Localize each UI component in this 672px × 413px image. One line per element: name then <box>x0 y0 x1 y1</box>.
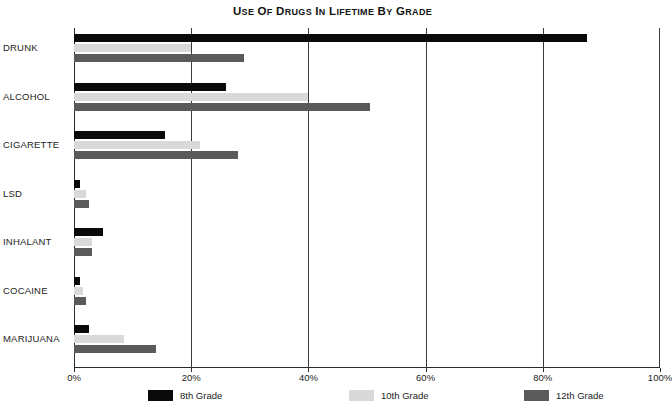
chart-title-word: DRUGS <box>276 5 312 17</box>
bar <box>74 34 587 42</box>
bar <box>74 103 370 111</box>
x-axis-tick-label: 60% <box>416 372 435 383</box>
chart-legend: 8th Grade10th Grade12th Grade <box>0 390 665 408</box>
bar <box>74 131 165 139</box>
chart-title-word: IN <box>315 5 325 17</box>
bar <box>74 228 103 236</box>
legend-swatch-icon <box>148 390 173 401</box>
chart-title-word: BY <box>378 5 393 17</box>
bar <box>74 335 124 343</box>
x-axis-tick-label: 0% <box>67 372 81 383</box>
legend-item[interactable]: 8th Grade <box>148 390 222 401</box>
chart-title-word: OF <box>258 5 273 17</box>
bar-group <box>74 77 660 126</box>
bar <box>74 151 238 159</box>
chart-title-word: GRADE <box>396 5 432 17</box>
chart-title-word: LIFETIME <box>329 5 374 17</box>
bar <box>74 44 191 52</box>
plot-area <box>74 28 660 368</box>
bar <box>74 238 92 246</box>
chart-title: USE OF DRUGS IN LIFETIME BY GRADE <box>0 5 665 17</box>
bar <box>74 93 308 101</box>
bar-group <box>74 319 660 368</box>
bar <box>74 54 244 62</box>
bar <box>74 297 86 305</box>
bar <box>74 180 80 188</box>
y-axis-label: LSD <box>3 188 71 199</box>
y-axis-label: ALCOHOL <box>3 91 71 102</box>
bar <box>74 345 156 353</box>
x-axis-tick-label: 40% <box>299 372 318 383</box>
bar <box>74 248 92 256</box>
bar <box>74 200 89 208</box>
bar-group <box>74 174 660 223</box>
chart-title-word: USE <box>233 5 254 17</box>
legend-item[interactable]: 12th Grade <box>524 390 604 401</box>
bar-group <box>74 28 660 77</box>
legend-swatch-icon <box>349 390 374 401</box>
x-axis-tick-label: 100% <box>648 372 672 383</box>
y-axis-label: CIGARETTE <box>3 139 71 150</box>
legend-label: 12th Grade <box>556 390 604 401</box>
bar <box>74 83 226 91</box>
legend-item[interactable]: 10th Grade <box>349 390 429 401</box>
y-axis-label: COCAINE <box>3 285 71 296</box>
bar <box>74 277 80 285</box>
y-axis-label: MARIJUANA <box>3 333 71 344</box>
y-axis-label: INHALANT <box>3 236 71 247</box>
bar <box>74 325 89 333</box>
x-axis-tick-label: 80% <box>533 372 552 383</box>
bar <box>74 190 86 198</box>
x-axis-tick-label: 20% <box>182 372 201 383</box>
legend-swatch-icon <box>524 390 549 401</box>
bar <box>74 287 83 295</box>
y-axis-label: DRUNK <box>3 42 71 53</box>
bar <box>74 141 200 149</box>
bar-group <box>74 125 660 174</box>
bar-group <box>74 222 660 271</box>
legend-label: 10th Grade <box>381 390 429 401</box>
legend-label: 8th Grade <box>180 390 222 401</box>
bar-group <box>74 271 660 320</box>
